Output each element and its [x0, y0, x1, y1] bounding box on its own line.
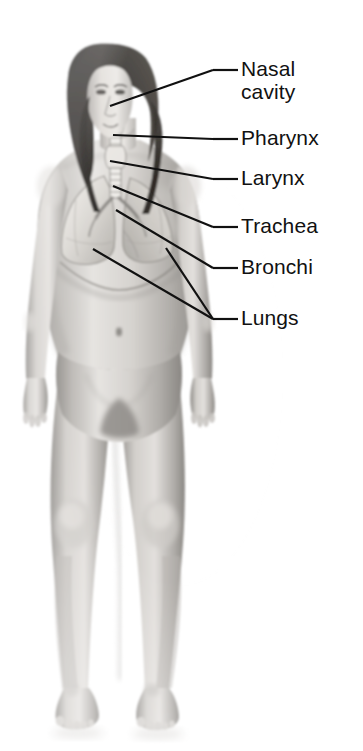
label-lungs-line1: Lungs [241, 306, 299, 329]
diagram-canvas: NasalcavityPharynxLarynxTracheaBronchiLu… [0, 0, 363, 751]
label-larynx-line1: Larynx [241, 166, 305, 189]
label-pharynx-line1: Pharynx [241, 126, 319, 149]
label-bronchi-line1: Bronchi [241, 255, 313, 278]
label-pharynx: Pharynx [241, 126, 319, 149]
label-trachea-line1: Trachea [241, 214, 318, 237]
label-nasal-cavity-line2: cavity [241, 80, 295, 103]
label-bronchi: Bronchi [241, 255, 313, 278]
labels-layer: NasalcavityPharynxLarynxTracheaBronchiLu… [0, 0, 363, 751]
label-lungs: Lungs [241, 306, 299, 329]
label-nasal-cavity-line1: Nasal [241, 57, 295, 80]
label-nasal-cavity: Nasalcavity [241, 57, 295, 103]
label-trachea: Trachea [241, 214, 318, 237]
label-larynx: Larynx [241, 166, 305, 189]
